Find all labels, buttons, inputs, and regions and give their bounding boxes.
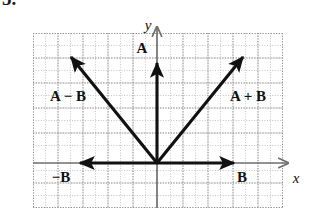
label-vector-minus-B: −B (52, 169, 71, 185)
figure-page: 5. (0, 0, 315, 216)
label-vector-B: B (237, 169, 247, 185)
x-axis-label: x (292, 170, 300, 186)
label-vector-A-plus-B: A + B (230, 88, 266, 104)
y-axis-label: y (143, 17, 152, 33)
label-vector-A-minus-B: A − B (50, 88, 86, 104)
label-vector-A: A (137, 40, 148, 56)
vector-diagram-plot: A A − B A + B −B B y x (0, 0, 315, 216)
